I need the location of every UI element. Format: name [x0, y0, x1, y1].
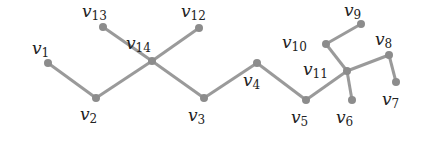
node-label-v11: v11: [303, 61, 328, 80]
label-letter: v: [188, 105, 198, 125]
node-label-v4: v4: [243, 72, 260, 91]
node-v7: [392, 78, 400, 86]
label-subscript: 2: [90, 112, 98, 126]
edge-v2-v14: [96, 61, 152, 98]
node-v11: [343, 67, 351, 75]
label-subscript: 14: [136, 41, 151, 55]
label-subscript: 3: [198, 113, 206, 127]
node-label-v9: v9: [344, 2, 361, 21]
edge-v1-v2: [48, 63, 96, 98]
label-letter: v: [336, 107, 346, 127]
node-label-v10: v10: [282, 34, 307, 53]
node-label-v14: v14: [126, 35, 151, 54]
node-v1: [44, 59, 52, 67]
label-letter: v: [80, 104, 90, 124]
node-v8: [385, 51, 393, 59]
label-letter: v: [282, 32, 292, 52]
label-subscript: 11: [313, 67, 328, 81]
label-letter: v: [32, 38, 42, 58]
edge-v11-v6: [347, 71, 352, 100]
label-letter: v: [382, 89, 392, 109]
label-letter: v: [344, 0, 354, 20]
label-subscript: 12: [191, 9, 206, 23]
label-subscript: 5: [301, 115, 309, 129]
edge-v4-v5: [257, 63, 306, 100]
label-letter: v: [181, 1, 191, 21]
label-subscript: 8: [385, 37, 393, 51]
node-label-v2: v2: [80, 106, 97, 125]
label-letter: v: [82, 1, 92, 21]
node-v10: [322, 40, 330, 48]
edges-group: [48, 24, 396, 100]
node-v6: [348, 96, 356, 104]
label-subscript: 10: [292, 40, 307, 54]
label-letter: v: [303, 59, 313, 79]
node-label-v3: v3: [188, 107, 205, 126]
node-label-v6: v6: [336, 109, 353, 128]
edge-v8-v7: [389, 55, 396, 82]
edge-v11-v8: [347, 55, 389, 71]
node-v4: [253, 59, 261, 67]
label-subscript: 7: [392, 97, 400, 111]
label-subscript: 1: [42, 46, 50, 60]
node-v14: [148, 57, 156, 65]
label-letter: v: [375, 29, 385, 49]
label-letter: v: [243, 70, 253, 90]
edge-v14-v3: [152, 61, 204, 98]
label-subscript: 6: [346, 115, 354, 129]
label-subscript: 13: [92, 9, 107, 23]
edge-v14-v12: [152, 28, 199, 61]
tree-diagram: v1v2v3v4v5v6v7v8v9v10v11v12v13v14: [0, 0, 422, 146]
node-v5: [302, 96, 310, 104]
node-v2: [92, 94, 100, 102]
label-letter: v: [126, 33, 136, 53]
node-v13: [99, 23, 107, 31]
label-subscript: 4: [253, 78, 261, 92]
edge-v10-v9: [326, 24, 361, 44]
node-label-v8: v8: [375, 31, 392, 50]
node-label-v1: v1: [32, 40, 49, 59]
label-subscript: 9: [354, 8, 362, 22]
node-label-v12: v12: [181, 3, 206, 22]
edge-v11-v10: [326, 44, 347, 71]
node-label-v13: v13: [82, 3, 107, 22]
node-v12: [195, 24, 203, 32]
node-label-v7: v7: [382, 91, 399, 110]
node-label-v5: v5: [291, 109, 308, 128]
node-v3: [200, 94, 208, 102]
label-letter: v: [291, 107, 301, 127]
